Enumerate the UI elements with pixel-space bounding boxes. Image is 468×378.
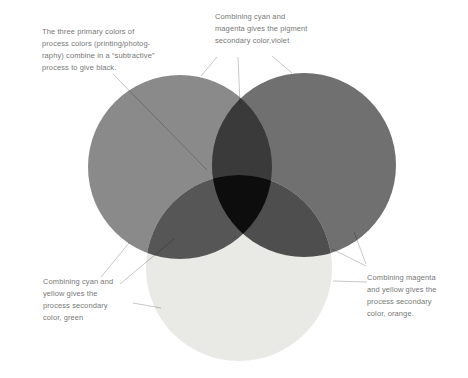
annotation-line: process secondary	[43, 300, 113, 312]
annotation-line: process to give black.	[42, 62, 155, 74]
subtractive-color-mixing-diagram: The three primary colors of process colo…	[0, 0, 468, 378]
annotation-line: process colors (printing/photog-	[42, 38, 155, 50]
annotation-line: color, green	[43, 312, 113, 324]
annotation-violet: Combining cyan and magenta gives the pig…	[215, 11, 308, 47]
leader-line-orange-to-overlap	[332, 249, 366, 266]
annotation-orange: Combining magenta and yellow gives the p…	[367, 272, 437, 320]
annotation-line: process secondary	[367, 296, 437, 308]
leader-line-violet-to-magenta	[272, 56, 292, 73]
annotation-line: magenta gives the pigment	[215, 23, 308, 35]
annotation-line: Combining magenta	[367, 272, 437, 284]
annotation-line: and yellow gives the	[367, 284, 437, 296]
annotation-green: Combining cyan and yellow gives the proc…	[43, 276, 113, 324]
annotation-line: Combining cyan and	[43, 276, 113, 288]
annotation-line: secondary color,violet	[215, 35, 308, 47]
leader-line-violet-to-cyan	[201, 57, 217, 76]
annotation-line: raphy) combine in a “subtractive”	[42, 50, 155, 62]
annotation-black: The three primary colors of process colo…	[42, 26, 155, 74]
leader-line-green-to-cyan	[101, 243, 129, 277]
annotation-line: color, orange.	[367, 308, 437, 320]
annotation-line: yellow gives the	[43, 288, 113, 300]
annotation-line: The three primary colors of	[42, 26, 155, 38]
leader-line-orange-to-yellow	[333, 281, 367, 282]
annotation-line: Combining cyan and	[215, 11, 308, 23]
